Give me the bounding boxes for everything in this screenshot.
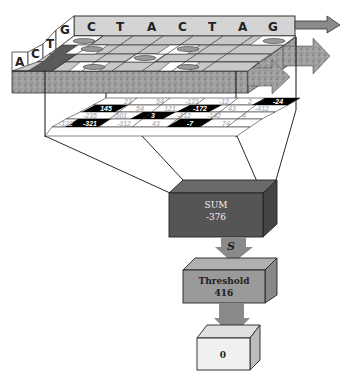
- weight-cell: 145: [100, 105, 112, 112]
- weight-cell: -321: [83, 120, 97, 127]
- alphabet-letter: T: [46, 37, 55, 51]
- threshold-label: Threshold: [198, 276, 250, 286]
- weight-cell: 43: [227, 105, 236, 112]
- weight-cell: 2: [247, 98, 252, 105]
- sequence-arrow: [295, 16, 340, 33]
- nucleotide-marker: [177, 47, 199, 52]
- weight-cell: -412: [255, 105, 269, 112]
- weight-cell: -172: [193, 105, 207, 112]
- alphabet-letter: G: [60, 23, 70, 37]
- nucleotide-marker: [83, 65, 105, 70]
- weight-cell: -312: [117, 120, 131, 127]
- weight-cell: 54: [156, 98, 164, 105]
- nucleotide-marker: [263, 39, 285, 44]
- weight-cell: -7: [187, 120, 194, 127]
- nucleotide-marker: [177, 65, 199, 70]
- weight-cell: -142: [207, 112, 221, 119]
- alphabet-letter: C: [31, 47, 40, 61]
- seq-letter: G: [268, 20, 278, 34]
- sum-label: SUM: [205, 200, 228, 210]
- weight-cell: -24: [273, 98, 283, 105]
- weight-cell: -501: [113, 112, 127, 119]
- threshold-value: 416: [215, 288, 234, 298]
- weight-cell: 43: [151, 120, 160, 127]
- weight-cell: 121: [164, 105, 176, 112]
- seq-letter: A: [238, 20, 248, 34]
- output-value: 0: [220, 350, 226, 360]
- seq-letter: T: [208, 20, 217, 34]
- weight-cell: 54: [136, 105, 144, 112]
- output-box: 0: [197, 325, 260, 370]
- weight-cell: -122: [59, 120, 73, 127]
- nucleotide-marker: [73, 39, 95, 44]
- weight-cell: 3: [151, 112, 155, 119]
- seq-letter: C: [178, 20, 187, 34]
- seq-letter: T: [116, 20, 125, 34]
- weight-cell: 23: [123, 98, 132, 105]
- sum-value: -376: [206, 212, 226, 222]
- weight-cell: -12: [219, 98, 229, 105]
- threshold-box: Threshold 416: [183, 258, 277, 303]
- seq-letter: C: [87, 20, 96, 34]
- weight-matrix: 23 54 -121 -12 2 -24 145 54 121 -172 43 …: [45, 98, 300, 136]
- score-arrow-label: S: [227, 240, 235, 253]
- nucleotide-marker: [81, 47, 103, 52]
- weight-cell: -235: [83, 112, 97, 119]
- pwm-diagram: C T A C T A G A C T G: [0, 0, 351, 381]
- seq-letter: A: [147, 20, 157, 34]
- nucleotide-marker: [134, 56, 156, 61]
- sequence-bar: C T A C T A G: [74, 16, 340, 36]
- sum-box: SUM -376: [169, 180, 277, 237]
